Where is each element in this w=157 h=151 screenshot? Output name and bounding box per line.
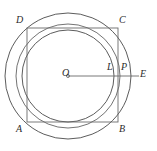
geometry-figure: O D C A B L P E <box>0 0 157 151</box>
figure-canvas <box>0 0 157 151</box>
label-vertex-d: D <box>16 15 23 25</box>
square-abcd <box>27 28 118 122</box>
label-center-o: O <box>62 68 69 78</box>
label-vertex-b: B <box>119 124 125 134</box>
label-vertex-c: C <box>119 15 126 25</box>
label-point-l: L <box>107 62 113 72</box>
label-point-e: E <box>140 69 146 79</box>
label-point-p: P <box>121 62 127 72</box>
label-vertex-a: A <box>16 124 22 134</box>
